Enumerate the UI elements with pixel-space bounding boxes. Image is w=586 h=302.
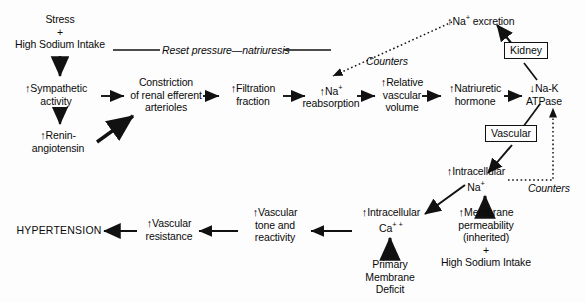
membrane-perm-line-5: High Sodium Intake bbox=[434, 256, 538, 269]
vascular-tone-line-1: ↑Vascular bbox=[240, 206, 310, 219]
membrane-perm-plus: + bbox=[434, 244, 538, 257]
na-reabsorption-na: Na bbox=[325, 85, 338, 97]
node-reset-pressure-natriuresis: Reset pressure—natriuresis bbox=[162, 44, 282, 57]
node-vascular-tone-reactivity: ↑Vascular tone and reactivity bbox=[240, 206, 310, 244]
primary-membrane-line-1: Primary bbox=[352, 258, 428, 271]
constriction-line-2: of renal efferent bbox=[126, 89, 206, 102]
line-vascular-to-na-k-atpase bbox=[523, 104, 540, 127]
node-counters-right: Counters bbox=[528, 182, 586, 195]
natriuretic-text: Natriuretic bbox=[454, 82, 501, 94]
vascular-tone-line-3: reactivity bbox=[240, 231, 310, 244]
node-relative-vascular-volume: ↑Relative vascular volume bbox=[376, 76, 428, 114]
na-k-text: Na-K bbox=[535, 82, 559, 94]
filtration-line-2: fraction bbox=[222, 95, 284, 108]
node-vascular-box: Vascular bbox=[485, 125, 537, 142]
node-intracellular-ca: ↑Intracellular Ca+ + bbox=[354, 206, 428, 234]
intracellular-na-text: Intracellular bbox=[452, 165, 505, 177]
node-na-excretion: ↑Na+ excretion bbox=[447, 12, 567, 27]
counters-top-label: Counters bbox=[352, 55, 422, 68]
vascular-label: Vascular bbox=[491, 127, 531, 139]
constriction-line-1: Constriction bbox=[126, 76, 206, 89]
node-sympathetic-activity: ↑Sympathetic activity bbox=[10, 82, 102, 107]
node-na-k-atpase: ↓Na-K ATPase bbox=[518, 82, 570, 107]
na-reabsorption-charge: + bbox=[338, 83, 342, 92]
filtration-text: Filtration bbox=[236, 82, 275, 94]
na-k-line-2: ATPase bbox=[518, 95, 570, 108]
intracellular-ca-text: Intracellular bbox=[367, 206, 420, 218]
na-excretion-word: excretion bbox=[473, 15, 515, 27]
node-counters-top: Counters bbox=[352, 55, 422, 68]
intracellular-ca-line-2: Ca+ + bbox=[354, 219, 428, 234]
filtration-line-1: ↑Filtration bbox=[222, 82, 284, 95]
na-k-line-1: ↓Na-K bbox=[518, 82, 570, 95]
relative-text: Relative bbox=[386, 76, 423, 88]
membrane-perm-line-2: permeability bbox=[434, 219, 538, 232]
na-excretion-na: Na bbox=[452, 15, 465, 27]
primary-membrane-line-3: Deficit bbox=[352, 283, 428, 296]
na-excretion-line: ↑Na+ excretion bbox=[447, 12, 567, 27]
node-primary-membrane-deficit: Primary Membrane Deficit bbox=[352, 258, 428, 296]
renin-line-1: ↑Renin- bbox=[12, 129, 104, 142]
intracellular-na-symbol: Na bbox=[467, 180, 480, 192]
na-excretion-charge: + bbox=[466, 13, 470, 22]
na-reabsorption-line-2: reabsorption bbox=[300, 97, 362, 110]
intracellular-na-line-1: ↑Intracellular bbox=[440, 165, 512, 178]
intracellular-na-charge: + bbox=[480, 179, 484, 188]
node-vascular-resistance: ↑Vascular resistance bbox=[138, 217, 200, 242]
relative-line-2: vascular bbox=[376, 89, 428, 102]
membrane-perm-line-3: (inherited) bbox=[434, 231, 538, 244]
node-na-reabsorption: ↑Na+ reabsorption bbox=[300, 82, 362, 110]
intracellular-ca-line-1: ↑Intracellular bbox=[354, 206, 428, 219]
constriction-line-3: arterioles bbox=[126, 101, 206, 114]
dotted-counters-top bbox=[333, 22, 452, 76]
vascular-resistance-line-1: ↑Vascular bbox=[138, 217, 200, 230]
sympathetic-line-2: activity bbox=[10, 95, 102, 108]
natriuretic-line-1: ↑Natriuretic bbox=[442, 82, 508, 95]
line-na-k-atpase-to-kidney bbox=[524, 63, 537, 80]
intracellular-ca-charge: + + bbox=[392, 220, 403, 229]
renin-line-2: angiotensin bbox=[12, 142, 104, 155]
stress-plus: + bbox=[2, 26, 118, 39]
kidney-label: Kidney bbox=[510, 44, 542, 56]
primary-membrane-line-2: Membrane bbox=[352, 271, 428, 284]
node-constriction-renal-efferent-arterioles: Constriction of renal efferent arteriole… bbox=[126, 76, 206, 114]
node-kidney-box: Kidney bbox=[504, 42, 548, 59]
node-membrane-permeability: ↑Membrane permeability (inherited) + Hig… bbox=[434, 206, 538, 269]
reset-label: Reset pressure—natriuresis bbox=[162, 44, 282, 57]
relative-line-1: ↑Relative bbox=[376, 76, 428, 89]
vascular-tone-line-2: tone and bbox=[240, 219, 310, 232]
vascular-resistance-text: Vascular bbox=[152, 217, 191, 229]
hypertension-label: HYPERTENSION bbox=[14, 224, 104, 237]
node-hypertension: HYPERTENSION bbox=[14, 224, 104, 237]
node-intracellular-na: ↑Intracellular Na+ bbox=[440, 165, 512, 193]
intracellular-ca-symbol: Ca bbox=[379, 221, 392, 233]
renin-text: Renin- bbox=[46, 129, 76, 141]
membrane-perm-line-1: ↑Membrane bbox=[434, 206, 538, 219]
dotted-counters-right bbox=[508, 108, 553, 180]
na-reabsorption-line-1: ↑Na+ bbox=[300, 82, 362, 97]
counters-right-label: Counters bbox=[528, 182, 586, 195]
vascular-tone-text: Vascular bbox=[258, 206, 297, 218]
node-stress: Stress + High Sodium Intake bbox=[2, 13, 118, 51]
sympathetic-text: Sympathetic bbox=[30, 82, 87, 94]
stress-line-1: Stress bbox=[2, 13, 118, 26]
node-filtration-fraction: ↑Filtration fraction bbox=[222, 82, 284, 107]
membrane-perm-text: Membrane bbox=[464, 206, 513, 218]
natriuretic-line-2: hormone bbox=[442, 95, 508, 108]
relative-line-3: volume bbox=[376, 101, 428, 114]
intracellular-na-line-2: Na+ bbox=[440, 178, 512, 193]
node-renin-angiotensin: ↑Renin- angiotensin bbox=[12, 129, 104, 154]
stress-line-3: High Sodium Intake bbox=[2, 38, 118, 51]
node-natriuretic-hormone: ↑Natriuretic hormone bbox=[442, 82, 508, 107]
vascular-resistance-line-2: resistance bbox=[138, 230, 200, 243]
sympathetic-line-1: ↑Sympathetic bbox=[10, 82, 102, 95]
flow-diagram: Stress + High Sodium Intake Reset pressu… bbox=[0, 0, 586, 302]
